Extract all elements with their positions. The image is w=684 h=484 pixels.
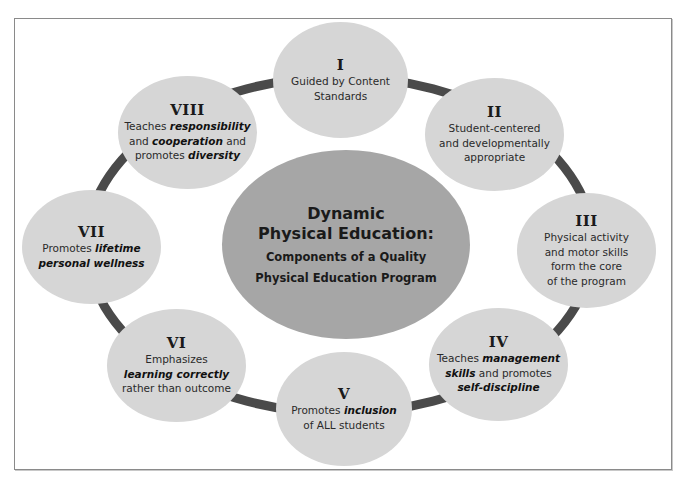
node-description-line: Student-centered: [439, 121, 550, 136]
node-numeral: V: [338, 386, 350, 403]
node-description: Teaches responsibilityand cooperation an…: [124, 119, 250, 163]
emphasized-text: cooperation: [152, 135, 223, 147]
text: and: [129, 135, 152, 147]
node-description-line: promotes diversity: [124, 148, 250, 163]
node-numeral: II: [487, 104, 502, 121]
emphasized-text: learning correctly: [124, 368, 229, 380]
node-numeral: VIII: [170, 102, 205, 119]
node-numeral: VII: [78, 224, 105, 241]
node-description: Promotes lifetimepersonal wellness: [38, 241, 144, 270]
center-subtitle-line-1: Components of a Quality: [266, 250, 426, 265]
emphasized-text: lifetime: [95, 242, 141, 254]
emphasized-text: diversity: [188, 149, 240, 161]
text: and motor skills: [545, 246, 629, 258]
node-description-line: Teaches management: [437, 351, 560, 366]
center-title-line-1: Dynamic: [307, 204, 385, 224]
node-description-line: and developmentally: [439, 136, 550, 151]
center-subtitle-line-2: Physical Education Program: [255, 271, 436, 286]
text: and: [223, 135, 246, 147]
center-ellipse: Dynamic Physical Education: Components o…: [222, 150, 470, 339]
emphasized-text: personal wellness: [38, 257, 144, 269]
text: Promotes: [291, 404, 344, 416]
emphasized-text: self-discipline: [457, 381, 539, 393]
text: Guided by Content: [291, 75, 390, 87]
emphasized-text: management: [482, 352, 560, 364]
node-description: Teaches managementskills and promotessel…: [437, 351, 560, 395]
text: of ALL students: [303, 419, 384, 431]
text: Promotes: [42, 242, 95, 254]
node-description: Student-centeredand developmentallyappro…: [439, 121, 550, 165]
node-description-line: rather than outcome: [122, 381, 231, 396]
component-node-ii: II Student-centeredand developmentallyap…: [425, 78, 564, 191]
emphasized-text: inclusion: [344, 404, 397, 416]
emphasized-text: responsibility: [170, 120, 251, 132]
node-description-line: and motor skills: [544, 245, 629, 260]
component-node-i: I Guided by ContentStandards: [273, 22, 408, 138]
text: rather than outcome: [122, 382, 231, 394]
node-description-line: Guided by Content: [291, 74, 390, 89]
node-description-line: Standards: [291, 89, 390, 104]
node-numeral: I: [337, 57, 345, 74]
node-description-line: skills and promotes: [437, 366, 560, 381]
node-description: Promotes inclusionof ALL students: [291, 403, 397, 432]
text: appropriate: [464, 151, 525, 163]
node-description: Physical activityand motor skillsform th…: [544, 230, 629, 288]
node-description-line: Promotes inclusion: [291, 403, 397, 418]
node-description-line: of the program: [544, 274, 629, 289]
node-description-line: learning correctly: [122, 367, 231, 382]
node-numeral: VI: [167, 335, 187, 352]
node-description-line: Emphasizes: [122, 352, 231, 367]
emphasized-text: skills: [445, 367, 475, 379]
component-node-iii: III Physical activityand motor skillsfor…: [517, 193, 656, 308]
text: Student-centered: [449, 122, 541, 134]
node-description-line: Physical activity: [544, 230, 629, 245]
text: Teaches: [437, 352, 482, 364]
node-description-line: form the core: [544, 259, 629, 274]
component-node-viii: VIII Teaches responsibilityand cooperati…: [118, 76, 257, 189]
node-description-line: of ALL students: [291, 418, 397, 433]
text: and promotes: [475, 367, 551, 379]
text: form the core: [551, 260, 622, 272]
component-node-vi: VI Emphasizeslearning correctlyrather th…: [107, 309, 246, 422]
node-description-line: and cooperation and: [124, 134, 250, 149]
node-description-line: Teaches responsibility: [124, 119, 250, 134]
node-description: Guided by ContentStandards: [291, 74, 390, 103]
component-node-iv: IV Teaches managementskills and promotes…: [429, 308, 568, 421]
component-node-vii: VII Promotes lifetimepersonal wellness: [22, 190, 161, 304]
text: Emphasizes: [145, 353, 207, 365]
component-node-v: V Promotes inclusionof ALL students: [276, 352, 412, 466]
text: and developmentally: [439, 137, 550, 149]
node-numeral: IV: [489, 334, 509, 351]
node-description-line: personal wellness: [38, 256, 144, 271]
node-description-line: appropriate: [439, 150, 550, 165]
node-description-line: self-discipline: [437, 380, 560, 395]
node-numeral: III: [575, 213, 598, 230]
text: promotes: [135, 149, 188, 161]
center-title-line-2: Physical Education:: [258, 224, 434, 244]
text: Standards: [314, 90, 367, 102]
text: of the program: [547, 275, 626, 287]
text: Physical activity: [544, 231, 629, 243]
node-description-line: Promotes lifetime: [38, 241, 144, 256]
node-description: Emphasizeslearning correctlyrather than …: [122, 352, 231, 396]
text: Teaches: [124, 120, 169, 132]
